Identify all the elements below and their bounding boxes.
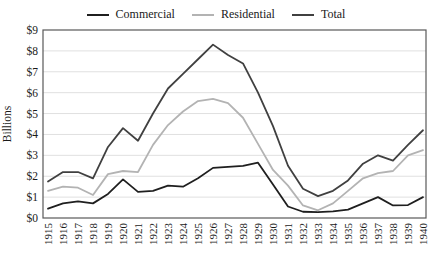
x-tick-label: 1931 <box>282 223 294 245</box>
chart-page: CommercialResidentialTotal $0$1$2$3$4$5$… <box>0 0 432 258</box>
y-tick-label: $9 <box>27 24 39 36</box>
x-tick-label: 1927 <box>222 223 234 246</box>
x-tick-label: 1930 <box>267 223 279 246</box>
y-axis-title: Billions <box>1 105 13 142</box>
x-tick-label: 1920 <box>117 223 129 246</box>
y-tick-label: $4 <box>27 128 39 140</box>
x-tick-label: 1937 <box>372 223 384 246</box>
x-tick-label: 1924 <box>177 223 189 246</box>
x-tick-label: 1932 <box>297 223 309 245</box>
x-tick-label: 1935 <box>342 223 354 246</box>
x-tick-label: 1938 <box>387 223 399 246</box>
series-line-total <box>48 45 423 196</box>
x-tick-label: 1918 <box>87 223 99 246</box>
y-tick-label: $0 <box>27 212 39 224</box>
y-tick-label: $1 <box>27 191 39 203</box>
series-line-commercial <box>48 163 423 213</box>
x-tick-label: 1919 <box>102 223 114 246</box>
x-tick-label: 1926 <box>207 223 219 246</box>
y-tick-label: $6 <box>27 87 39 99</box>
x-tick-label: 1917 <box>72 223 84 246</box>
y-tick-label: $3 <box>27 149 39 161</box>
x-tick-label: 1929 <box>252 223 264 246</box>
x-tick-label: 1925 <box>192 223 204 246</box>
x-tick-label: 1922 <box>147 223 159 245</box>
x-tick-label: 1923 <box>162 223 174 246</box>
x-tick-label: 1933 <box>312 223 324 246</box>
x-tick-label: 1939 <box>402 223 414 246</box>
chart-plot: $0$1$2$3$4$5$6$7$8$919151916191719181919… <box>0 0 432 258</box>
x-tick-label: 1934 <box>327 223 339 246</box>
x-tick-label: 1916 <box>57 223 69 246</box>
x-tick-label: 1921 <box>132 223 144 245</box>
x-tick-label: 1915 <box>42 223 54 246</box>
x-tick-label: 1940 <box>417 223 429 246</box>
y-tick-label: $2 <box>27 170 39 182</box>
x-tick-label: 1928 <box>237 223 249 246</box>
y-tick-label: $5 <box>27 108 39 120</box>
y-tick-label: $8 <box>27 45 39 57</box>
y-tick-label: $7 <box>27 66 39 78</box>
x-tick-label: 1936 <box>357 223 369 246</box>
